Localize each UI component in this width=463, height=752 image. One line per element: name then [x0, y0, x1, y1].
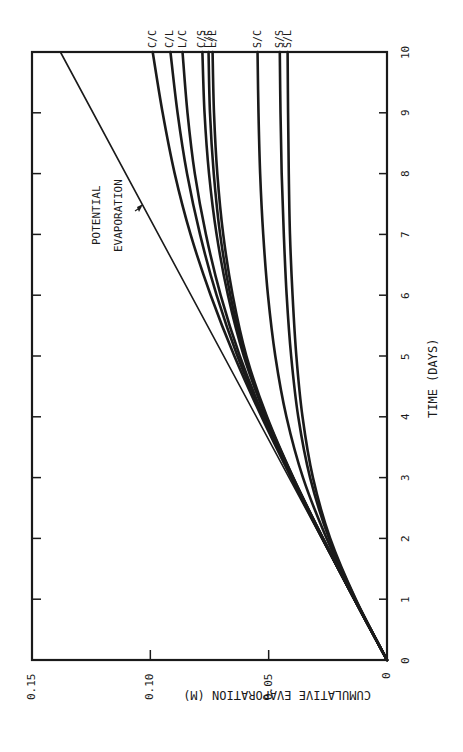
- x-tick-label: 7: [400, 231, 411, 238]
- y-axis-label: CUMULATIVE EVAPORATION (M): [183, 689, 371, 700]
- plot-border: [32, 52, 387, 660]
- x-tick-label: 0: [400, 657, 411, 664]
- series-label: L/C: [177, 30, 188, 48]
- series-label: C/L: [164, 30, 175, 48]
- x-tick-label: 4: [400, 414, 411, 421]
- series-label: S/L: [282, 30, 293, 48]
- series-line-l-c: [183, 52, 387, 660]
- series-label: L/L: [207, 30, 218, 48]
- axis-ticks: [32, 113, 387, 660]
- annotation-evaporation: EVAPORATION: [113, 179, 124, 252]
- series-line-s-c: [258, 52, 387, 660]
- y-tick-label: 0: [381, 672, 392, 679]
- series-label: S/C: [252, 30, 263, 48]
- evaporation-chart: [0, 0, 463, 752]
- annotation-potential: POTENTIAL: [91, 185, 102, 245]
- series-line-c-c: [153, 52, 387, 660]
- x-tick-label: 5: [400, 353, 411, 360]
- x-tick-label: 2: [400, 535, 411, 542]
- y-tick-label: 0.15: [26, 674, 37, 701]
- x-tick-label: 6: [400, 292, 411, 299]
- x-tick-label: 8: [400, 170, 411, 177]
- curves-layer: [60, 52, 387, 660]
- x-tick-label: 10: [400, 46, 411, 59]
- plot-frame: [32, 52, 387, 660]
- series-label: C/C: [147, 30, 158, 48]
- x-tick-label: 3: [400, 474, 411, 481]
- series-line-c-l: [170, 52, 387, 660]
- y-tick-label: 0.10: [144, 674, 155, 701]
- annotation-arrow-icon: [135, 204, 143, 212]
- x-axis-label: TIME (DAYS): [428, 339, 439, 418]
- x-tick-label: 1: [400, 596, 411, 603]
- series-line-c-s: [202, 52, 387, 660]
- x-tick-label: 9: [400, 110, 411, 117]
